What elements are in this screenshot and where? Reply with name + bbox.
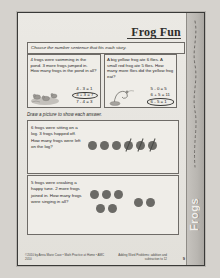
problem-2-box[interactable]: A big yellow frog ate 6 flies. A small r… xyxy=(104,54,178,108)
problem-4-story: 5 frogs were croaking a happy tune. 2 mo… xyxy=(31,180,83,205)
dot xyxy=(102,190,111,199)
problem-2-options[interactable]: 5 - 0 = 5 6 + 5 = 11 6 - 5 = 1 xyxy=(148,86,173,105)
worksheet-content: Frog Fun Choose the number sentence that… xyxy=(18,13,187,265)
instruction-2: Draw a picture to show each answer. xyxy=(27,112,177,117)
dot xyxy=(108,204,117,213)
problem-1-box[interactable]: 4 frogs were swimming in the pond. 3 mor… xyxy=(27,54,101,108)
problem-4-box[interactable]: 5 frogs were croaking a happy tune. 2 mo… xyxy=(27,175,179,235)
footer-copyright: ©2010 by Anna Marie Case • Math Practice… xyxy=(25,254,105,261)
problem-2-story: A big yellow frog ate 6 flies. A small r… xyxy=(107,57,174,80)
footer: ©2010 by Anna Marie Case • Math Practice… xyxy=(25,254,167,261)
hop-path-icon xyxy=(190,19,200,169)
page-number: 9 xyxy=(183,256,185,261)
problem-3-drawing[interactable] xyxy=(86,121,175,173)
title-underline xyxy=(127,38,181,39)
dot xyxy=(100,141,109,150)
problem-3-box[interactable]: 6 frogs were sitting on a log. 3 frogs h… xyxy=(27,120,179,174)
dot xyxy=(90,190,99,199)
frogs-in-pond-illustration-icon xyxy=(30,82,60,106)
problem-1-options[interactable]: 4 - 3 = 1 4 + 3 = 7 7 - 4 = 3 xyxy=(73,86,96,105)
problem-4-drawing[interactable] xyxy=(86,176,175,234)
worksheet-sheet: Frogs Frog Fun Choose the number sentenc… xyxy=(17,12,205,266)
dot xyxy=(146,198,155,207)
dot xyxy=(88,141,97,150)
side-tab-label: Frogs xyxy=(188,198,203,231)
footer-skill: Adding Word Problems: addition and subtr… xyxy=(105,254,167,261)
dot xyxy=(112,141,121,150)
frog-catching-fly-illustration-icon xyxy=(107,82,137,106)
dot xyxy=(134,198,143,207)
side-tab: Frogs xyxy=(186,13,204,265)
dot xyxy=(96,204,105,213)
problem-1-story: 4 frogs were swimming in the pond. 3 mor… xyxy=(31,57,98,74)
problem-3-story: 6 frogs were sitting on a log. 3 frogs h… xyxy=(31,125,83,150)
instruction-1: Choose the number sentence that fits eac… xyxy=(27,42,185,54)
problem-1-option-2[interactable]: 7 - 4 = 3 xyxy=(73,99,96,105)
problem-2-option-2[interactable]: 6 - 5 = 1 xyxy=(148,99,173,105)
dot xyxy=(114,190,123,199)
story-row: 4 frogs were swimming in the pond. 3 mor… xyxy=(27,54,177,108)
worksheet-page: Frogs Frog Fun Choose the number sentenc… xyxy=(0,0,220,278)
